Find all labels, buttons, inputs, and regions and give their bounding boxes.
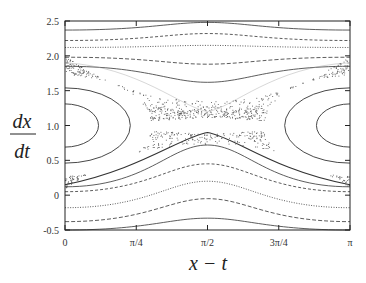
y-tick-label: -0.5 [43, 225, 59, 236]
x-tick-label: π/4 [130, 237, 143, 248]
y-axis-label-numerator: dx [13, 110, 32, 132]
y-tick-label: 2.5 [47, 16, 60, 27]
x-tick-label: π/2 [201, 237, 214, 248]
x-axis-ticks: 0π/4π/23π/4π [63, 21, 353, 248]
phase-portrait-chart: -0.500.51.01.52.02.5 0π/4π/23π/4π dx dt … [0, 0, 366, 283]
y-tick-label: 0.5 [47, 155, 60, 166]
y-tick-label: 2.0 [47, 51, 60, 62]
y-axis-ticks: -0.500.51.01.52.02.5 [43, 16, 350, 236]
x-axis-label: x − t [188, 252, 227, 274]
invariant-curves [65, 22, 350, 230]
chaotic-sea-points [65, 57, 350, 189]
y-axis-label-denominator: dt [14, 140, 30, 162]
x-tick-label: 3π/4 [270, 237, 288, 248]
y-tick-label: 1.5 [47, 86, 60, 97]
x-tick-label: 0 [63, 237, 68, 248]
y-tick-label: 1.0 [47, 121, 60, 132]
x-tick-label: π [347, 237, 352, 248]
y-tick-label: 0 [54, 190, 59, 201]
